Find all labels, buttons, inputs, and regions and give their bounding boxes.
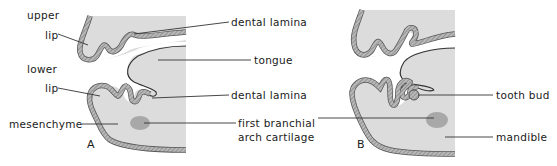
panel-letter-a: A xyxy=(87,138,95,151)
label-tooth-bud: tooth bud xyxy=(496,89,550,101)
label-dental-lamina-bottom: dental lamina xyxy=(231,89,307,101)
label-upper: upper xyxy=(27,9,59,21)
label-lower: lower xyxy=(27,63,57,75)
label-mandible: mandible xyxy=(496,131,547,143)
label-lower-lip: lip xyxy=(45,82,58,94)
label-dental-lamina-top: dental lamina xyxy=(231,16,307,28)
panel-letter-b: B xyxy=(357,138,365,151)
label-upper-lip: lip xyxy=(45,29,58,41)
label-cartilage-line1: first branchial xyxy=(238,117,315,129)
label-cartilage-line2: arch cartilage xyxy=(238,131,315,143)
label-mesenchyme: mesenchyme xyxy=(9,118,83,130)
label-tongue: tongue xyxy=(254,54,293,66)
panel-b xyxy=(318,10,493,166)
